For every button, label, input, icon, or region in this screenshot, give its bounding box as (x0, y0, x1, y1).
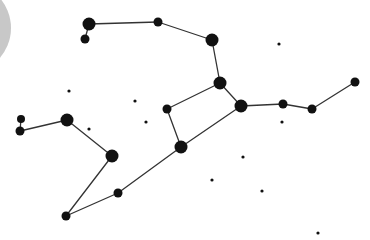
constellation-line (20, 120, 67, 131)
star-icon (163, 105, 172, 114)
star-icon (206, 34, 219, 47)
moon-icon (0, 0, 11, 74)
faint-star-icon (280, 120, 283, 123)
star-icon (61, 114, 74, 127)
star-icon (106, 150, 119, 163)
constellation-line (66, 156, 112, 216)
bright-stars (16, 18, 360, 221)
faint-star-icon (144, 120, 147, 123)
faint-star-icon (241, 155, 244, 158)
faint-star-icon (316, 231, 319, 234)
faint-star-icon (87, 127, 90, 130)
star-icon (279, 100, 288, 109)
star-icon (175, 141, 188, 154)
star-icon (16, 127, 25, 136)
star-icon (114, 189, 123, 198)
faint-star-icon (277, 42, 280, 45)
constellation-diagram (0, 0, 370, 240)
star-icon (17, 115, 25, 123)
constellation-line (118, 147, 181, 193)
faint-star-icon (133, 99, 136, 102)
star-icon (83, 18, 96, 31)
constellation-line (158, 22, 212, 40)
constellation-line (212, 40, 220, 83)
star-icon (351, 78, 360, 87)
faint-star-icon (260, 189, 263, 192)
moon-disc (0, 0, 11, 74)
constellation-line (67, 120, 112, 156)
star-icon (235, 100, 248, 113)
constellation-line (181, 106, 241, 147)
constellation-line (312, 82, 355, 109)
star-icon (81, 35, 90, 44)
star-icon (154, 18, 163, 27)
constellation-line (89, 22, 158, 24)
faint-star-icon (67, 89, 70, 92)
faint-star-icon (210, 178, 213, 181)
sky-canvas (0, 0, 370, 240)
constellation-line (66, 193, 118, 216)
star-icon (308, 105, 317, 114)
star-icon (62, 212, 71, 221)
constellation-line (167, 83, 220, 109)
star-icon (214, 77, 227, 90)
